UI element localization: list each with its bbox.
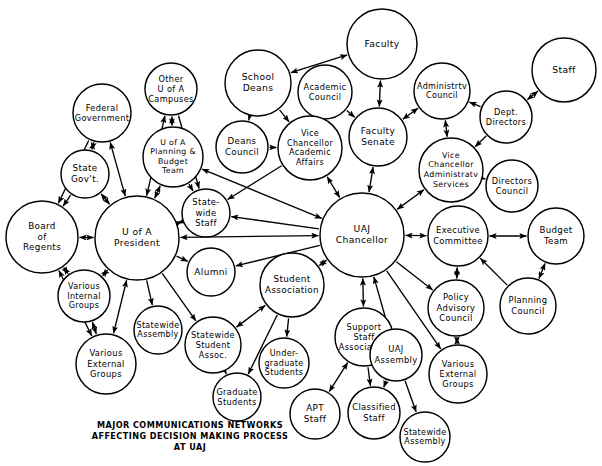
node-faculty[interactable]: Faculty (347, 9, 417, 79)
node-circle-school_deans[interactable] (225, 50, 291, 116)
node-circle-alumni[interactable] (187, 248, 235, 296)
edge-faculty_senate-to-administrtv_council (403, 108, 418, 119)
node-circle-uofa_president[interactable] (95, 196, 179, 280)
edge-uaj_assembly-to-classified_staff (384, 381, 387, 388)
node-academic_council[interactable]: AcademicCouncil (298, 65, 352, 119)
node-vc_admin[interactable]: ViceChancellorAdministratvServices (419, 138, 483, 202)
node-statewide_assembly_r[interactable]: StatewideAssembly (400, 412, 450, 462)
node-statewide_staff[interactable]: State-wideStaff (182, 189, 230, 237)
edge-dept_directors-to-vc_admin (475, 136, 486, 147)
node-circle-dept_directors[interactable] (480, 91, 532, 143)
node-planning_budget[interactable]: U of APlanning &BudgetTeam (143, 127, 203, 187)
edge-uofa_president-to-statewide_assembly_l (147, 280, 153, 305)
node-circle-apt_staff[interactable] (290, 389, 340, 439)
node-uaj_chancellor[interactable]: UAJChancellor (320, 193, 404, 277)
edge-uaj_chancellor-to-support_staff (363, 278, 364, 306)
node-planning_council[interactable]: PlanningCouncil (500, 278, 556, 334)
node-circle-student_assoc[interactable] (260, 253, 324, 317)
edge-planning_council-to-exec_committee (480, 258, 507, 285)
edge-state_gov-to-board_regents (63, 195, 70, 206)
node-circle-policy_advisory[interactable] (428, 280, 484, 336)
node-circle-vc_admin[interactable] (419, 138, 483, 202)
node-board_regents[interactable]: BoardofRegents (6, 201, 78, 273)
node-staff[interactable]: Staff (532, 38, 596, 102)
edge-federal_gov-to-uofa_president (110, 142, 125, 196)
node-federal_gov[interactable]: FederalGovernment (73, 84, 131, 142)
node-circle-uaj_chancellor[interactable] (320, 193, 404, 277)
node-deans_council[interactable]: DeansCouncil (216, 121, 268, 173)
node-circle-various_internal[interactable] (58, 270, 110, 322)
node-undergrad[interactable]: Under-graduateStudents (259, 338, 309, 388)
edge-uaj_chancellor-to-policy_advisory (396, 262, 432, 290)
edge-uofa_president-to-alumni (177, 256, 188, 261)
node-circle-administrtv_council[interactable] (414, 63, 470, 119)
node-vc_academic[interactable]: ViceChancellorAcademicAffairs (278, 116, 342, 180)
edge-uaj_assembly-to-statewide_assembly_r (405, 381, 416, 412)
node-alumni[interactable]: Alumni (187, 248, 235, 296)
node-various_external_r[interactable]: VariousExternalGroups (429, 345, 487, 403)
edge-vc_admin-to-directors_council (483, 179, 485, 180)
node-statewide_assembly_l[interactable]: StatewideAssembly (134, 306, 182, 354)
node-various_internal[interactable]: VariousInternalGroups (58, 270, 110, 322)
node-school_deans[interactable]: SchoolDeans (225, 50, 291, 116)
node-uaj_assembly[interactable]: UAJAssembly (370, 329, 422, 381)
node-circle-uaj_assembly[interactable] (370, 329, 422, 381)
node-circle-directors_council[interactable] (486, 160, 538, 212)
node-circle-planning_budget[interactable] (143, 127, 203, 187)
node-other_uofa[interactable]: OtherU of ACampuses (145, 63, 197, 115)
node-circle-classified_staff[interactable] (348, 387, 400, 439)
edge-board_regents-to-various_internal (64, 268, 68, 274)
node-circle-statewide_student[interactable] (185, 317, 241, 373)
edge-vc_academic-to-uaj_chancellor (327, 177, 339, 198)
edge-uaj_chancellor-to-statewide_staff (231, 217, 319, 229)
node-statewide_student[interactable]: StatewideStudentAssoc. (185, 317, 241, 373)
node-circle-faculty_senate[interactable] (349, 108, 407, 166)
edge-planning_budget-to-statewide_staff (189, 184, 193, 191)
node-circle-vc_academic[interactable] (278, 116, 342, 180)
node-various_external_l[interactable]: VariousExternalGroups (76, 334, 136, 394)
node-circle-board_regents[interactable] (6, 201, 78, 273)
edge-budget_team-to-planning_council (539, 263, 545, 278)
edge-uofa_president-to-statewide_staff (178, 222, 182, 223)
node-budget_team[interactable]: BudgetTeam (528, 208, 584, 264)
node-student_assoc[interactable]: StudentAssociation (260, 253, 324, 317)
node-circle-staff[interactable] (532, 38, 596, 102)
edge-statewide_student-to-graduate (225, 372, 226, 374)
node-circle-faculty[interactable] (347, 9, 417, 79)
node-circle-deans_council[interactable] (216, 121, 268, 173)
node-classified_staff[interactable]: ClassifiedStaff (348, 387, 400, 439)
node-circle-statewide_staff[interactable] (182, 189, 230, 237)
node-circle-federal_gov[interactable] (73, 84, 131, 142)
node-circle-undergrad[interactable] (259, 338, 309, 388)
node-policy_advisory[interactable]: PolicyAdvisoryCouncil (428, 280, 484, 336)
node-exec_committee[interactable]: ExecutiveCommittee (428, 206, 488, 266)
node-administrtv_council[interactable]: AdministrtvCouncil (414, 63, 470, 119)
edge-vc_admin-to-uaj_chancellor (397, 190, 424, 210)
edge-planning_budget-to-uofa_president (155, 186, 161, 198)
node-circle-academic_council[interactable] (298, 65, 352, 119)
edge-various_internal-to-various_external_l (92, 322, 96, 334)
edge-faculty_senate-to-uaj_chancellor (369, 167, 373, 192)
node-circle-planning_council[interactable] (500, 278, 556, 334)
node-circle-budget_team[interactable] (528, 208, 584, 264)
node-circle-state_gov[interactable] (61, 150, 109, 198)
node-circle-other_uofa[interactable] (145, 63, 197, 115)
node-dept_directors[interactable]: Dept.Directors (480, 91, 532, 143)
caption-line: MAJOR COMMUNICATIONS NETWORKS (97, 420, 283, 430)
node-faculty_senate[interactable]: FacultySenate (349, 108, 407, 166)
node-directors_council[interactable]: DirectorsCouncil (486, 160, 538, 212)
diagram-canvas: FacultyStaffSchoolDeansOtherU of ACampus… (0, 0, 602, 466)
node-circle-various_external_l[interactable] (76, 334, 136, 394)
node-uofa_president[interactable]: U of APresident (95, 196, 179, 280)
node-circle-statewide_assembly_l[interactable] (134, 306, 182, 354)
node-graduate[interactable]: GraduateStudents (213, 373, 261, 421)
edge-uofa_president-to-various_external_l (114, 280, 127, 333)
node-circle-exec_committee[interactable] (428, 206, 488, 266)
node-state_gov[interactable]: StateGov't. (61, 150, 109, 198)
node-circle-various_external_r[interactable] (429, 345, 487, 403)
edge-support_staff-to-apt_staff (329, 363, 347, 392)
node-apt_staff[interactable]: APTStaff (290, 389, 340, 439)
edge-state_gov-to-uofa_president (101, 194, 109, 204)
node-circle-statewide_assembly_r[interactable] (400, 412, 450, 462)
node-circle-graduate[interactable] (213, 373, 261, 421)
